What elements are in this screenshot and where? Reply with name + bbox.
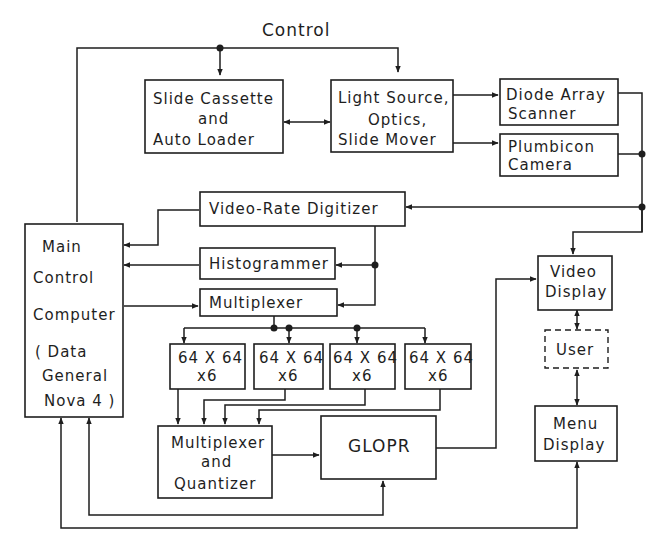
svg-text:64 X 64: 64 X 64 — [409, 349, 474, 367]
diode-array-scanner-block: Diode Array Scanner — [500, 79, 618, 125]
svg-text:Slide Cassette: Slide Cassette — [153, 90, 274, 108]
svg-text:Slide Mover: Slide Mover — [338, 131, 437, 149]
svg-text:Plumbicon: Plumbicon — [508, 138, 595, 156]
memory-block-4: 64 X 64 x6 — [405, 344, 474, 389]
histogrammer-block: Histogrammer — [200, 248, 335, 279]
svg-text:Video: Video — [550, 263, 597, 281]
video-rate-digitizer-block: Video-Rate Digitizer — [200, 192, 405, 226]
svg-text:GLOPR: GLOPR — [348, 436, 410, 456]
glopr-block: GLOPR — [321, 416, 436, 479]
plumbicon-camera-block: Plumbicon Camera — [500, 134, 618, 176]
memory-block-3: 64 X 64 x6 — [330, 344, 398, 389]
wire-computer-to-menu — [61, 418, 577, 528]
memory-block-1: 64 X 64 x6 — [170, 344, 245, 389]
svg-text:Display: Display — [545, 283, 607, 301]
block-diagram: Control Slide — [0, 0, 663, 549]
wire-digitizer-to-computer — [124, 210, 199, 245]
svg-text:Multiplexer: Multiplexer — [171, 434, 265, 452]
svg-text:x6: x6 — [197, 367, 217, 385]
svg-text:Control: Control — [33, 269, 94, 287]
junction-dot — [271, 325, 278, 332]
svg-text:Nova 4 ): Nova 4 ) — [44, 392, 115, 410]
user-block: User — [545, 330, 608, 368]
multiplexer-quantizer-block: Multiplexer and Quantizer — [158, 426, 272, 498]
menu-display-block: Menu Display — [535, 406, 617, 461]
wire-memory-2-out — [204, 389, 285, 424]
main-control-computer-block: Main Control Computer ( Data General Nov… — [25, 224, 123, 417]
svg-text:Display: Display — [543, 436, 605, 454]
svg-text:Menu: Menu — [553, 415, 598, 433]
svg-text:Light Source,: Light Source, — [338, 89, 450, 107]
svg-text:Scanner: Scanner — [508, 105, 576, 123]
junction-dot — [639, 151, 646, 158]
svg-text:Multiplexer: Multiplexer — [209, 294, 303, 312]
svg-text:and: and — [198, 110, 229, 128]
svg-text:Histogrammer: Histogrammer — [209, 255, 329, 273]
video-display-block: Video Display — [538, 256, 612, 310]
wire-diode-out — [618, 93, 642, 232]
svg-text:64 X 64: 64 X 64 — [178, 349, 243, 367]
svg-text:Video-Rate Digitizer: Video-Rate Digitizer — [209, 200, 379, 218]
svg-text:x6: x6 — [352, 367, 372, 385]
wire-to-video-display — [573, 207, 642, 254]
svg-text:x6: x6 — [428, 367, 448, 385]
svg-text:General: General — [42, 367, 108, 385]
svg-text:Quantizer: Quantizer — [174, 475, 256, 493]
svg-text:Auto Loader: Auto Loader — [153, 131, 255, 149]
svg-text:x6: x6 — [278, 367, 298, 385]
svg-text:Main: Main — [42, 238, 82, 256]
svg-text:Diode Array: Diode Array — [506, 86, 606, 104]
svg-text:64 X 64: 64 X 64 — [259, 349, 324, 367]
svg-text:Camera: Camera — [508, 156, 573, 174]
svg-text:64 X 64: 64 X 64 — [333, 349, 398, 367]
multiplexer-block: Multiplexer — [200, 289, 337, 316]
svg-text:( Data: ( Data — [35, 343, 87, 361]
svg-text:and: and — [201, 453, 232, 471]
control-label: Control — [262, 20, 330, 40]
svg-text:Optics,: Optics, — [368, 111, 427, 129]
slide-cassette-block: Slide Cassette and Auto Loader — [145, 80, 283, 153]
svg-text:Computer: Computer — [33, 306, 116, 324]
memory-block-2: 64 X 64 x6 — [254, 344, 324, 389]
light-source-block: Light Source, Optics, Slide Mover — [331, 80, 453, 152]
svg-text:User: User — [556, 341, 594, 359]
